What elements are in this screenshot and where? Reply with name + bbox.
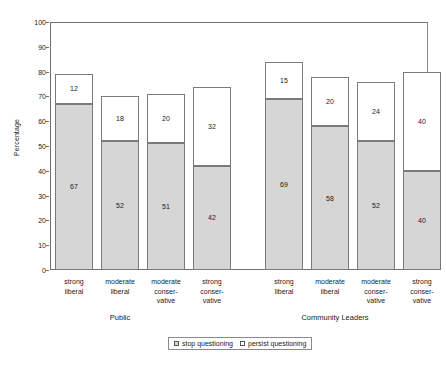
x-category-label-community-strong-liberal: strong liberal <box>262 277 306 296</box>
bar-value-public-strong-liberal-persist: 12 <box>55 74 93 104</box>
bar-value-public-moderate-liberal-persist: 18 <box>101 96 139 141</box>
legend-label-stop: stop questioning <box>182 340 233 347</box>
bar-value-community-strong-conservative-persist: 40 <box>403 72 441 171</box>
x-category-label-public-strong-conservative: strong conser- vative <box>190 277 234 306</box>
cat-line-1: strong <box>400 277 444 287</box>
bars-layer: 12 67 18 52 20 51 32 42 15 69 20 58 <box>0 0 446 365</box>
group-label-community-leaders: Community Leaders <box>280 313 390 322</box>
cat-line-2: conser- <box>354 287 398 297</box>
legend-swatch-persist-icon <box>240 341 245 346</box>
group-label-public: Public <box>75 313 165 322</box>
bar-public-strong-liberal[interactable]: 12 67 <box>55 74 93 270</box>
cat-line-2: liberal <box>308 287 352 297</box>
cat-line-2: conser- <box>400 287 444 297</box>
cat-line-1: moderate <box>354 277 398 287</box>
bar-public-strong-conservative[interactable]: 32 42 <box>193 87 231 271</box>
cat-line-1: moderate <box>144 277 188 287</box>
bar-value-public-strong-conservative-stop: 42 <box>193 166 231 270</box>
bar-value-community-moderate-liberal-persist: 20 <box>311 77 349 127</box>
chart-legend: stop questioning persist questioning <box>168 337 312 350</box>
x-category-label-community-moderate-liberal: moderate liberal <box>308 277 352 296</box>
bar-value-public-strong-conservative-persist: 32 <box>193 87 231 166</box>
bar-value-community-moderate-conservative-stop: 52 <box>357 141 395 270</box>
cat-line-1: moderate <box>98 277 142 287</box>
legend-item-persist-questioning[interactable]: persist questioning <box>240 340 306 347</box>
legend-item-stop-questioning[interactable]: stop questioning <box>174 340 233 347</box>
cat-line-3: vative <box>190 296 234 306</box>
cat-line-1: strong <box>52 277 96 287</box>
bar-community-moderate-conservative[interactable]: 24 52 <box>357 82 395 270</box>
cat-line-3: vative <box>400 296 444 306</box>
x-category-label-community-strong-conservative: strong conser- vative <box>400 277 444 306</box>
bar-value-community-moderate-conservative-persist: 24 <box>357 82 395 142</box>
x-category-label-public-moderate-liberal: moderate liberal <box>98 277 142 296</box>
cat-line-1: moderate <box>308 277 352 287</box>
bar-value-public-moderate-conservative-stop: 51 <box>147 143 185 270</box>
cat-line-2: conser- <box>190 287 234 297</box>
cat-line-3: vative <box>354 296 398 306</box>
bar-value-public-moderate-conservative-persist: 20 <box>147 94 185 144</box>
bar-community-strong-conservative[interactable]: 40 40 <box>403 72 441 270</box>
cat-line-1: strong <box>262 277 306 287</box>
cat-line-2: liberal <box>52 287 96 297</box>
bar-value-public-strong-liberal-stop: 67 <box>55 104 93 270</box>
stacked-bar-chart: Percentage 100 90 80 70 60 50 40 30 20 1… <box>0 0 446 365</box>
cat-line-2: conser- <box>144 287 188 297</box>
bar-community-moderate-liberal[interactable]: 20 58 <box>311 77 349 270</box>
bar-public-moderate-liberal[interactable]: 18 52 <box>101 96 139 270</box>
legend-label-persist: persist questioning <box>248 340 306 347</box>
bar-public-moderate-conservative[interactable]: 20 51 <box>147 94 185 270</box>
bar-value-community-strong-conservative-stop: 40 <box>403 171 441 270</box>
legend-swatch-stop-icon <box>174 341 179 346</box>
bar-value-community-moderate-liberal-stop: 58 <box>311 126 349 270</box>
bar-value-public-moderate-liberal-stop: 52 <box>101 141 139 270</box>
cat-line-3: vative <box>144 296 188 306</box>
x-category-label-public-moderate-conservative: moderate conser- vative <box>144 277 188 306</box>
x-category-label-community-moderate-conservative: moderate conser- vative <box>354 277 398 306</box>
bar-value-community-strong-liberal-stop: 69 <box>265 99 303 270</box>
cat-line-1: strong <box>190 277 234 287</box>
x-category-label-public-strong-liberal: strong liberal <box>52 277 96 296</box>
cat-line-2: liberal <box>98 287 142 297</box>
cat-line-2: liberal <box>262 287 306 297</box>
bar-community-strong-liberal[interactable]: 15 69 <box>265 62 303 270</box>
bar-value-community-strong-liberal-persist: 15 <box>265 62 303 99</box>
